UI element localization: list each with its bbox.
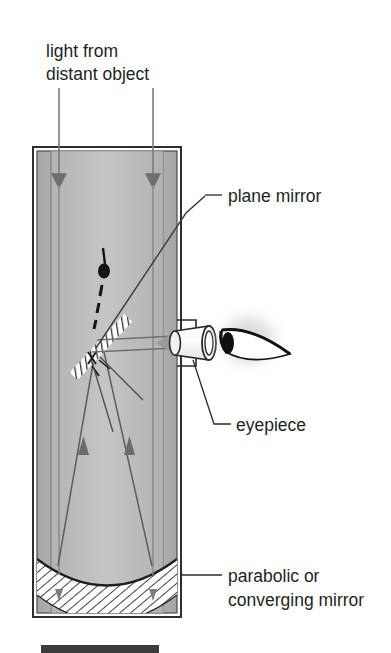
label-plane-mirror: plane mirror: [228, 186, 322, 206]
label-converging-mirror: converging mirror: [228, 590, 364, 610]
diagram-canvas: light from distant object plane mirror e…: [0, 0, 391, 653]
label-light-from: light from: [46, 41, 118, 61]
pupil: [222, 332, 234, 354]
label-distant-object: distant object: [46, 64, 149, 84]
telescope-tube: [30, 145, 184, 620]
leader-plane-mirror-hook: [186, 196, 205, 213]
telescope-diagram: light from distant object plane mirror e…: [0, 0, 391, 653]
scale-bar: [41, 645, 159, 653]
label-eyepiece: eyepiece: [236, 415, 306, 435]
eye: [206, 302, 290, 378]
label-parabolic-or: parabolic or: [228, 566, 320, 586]
leader-lines: [180, 195, 231, 575]
